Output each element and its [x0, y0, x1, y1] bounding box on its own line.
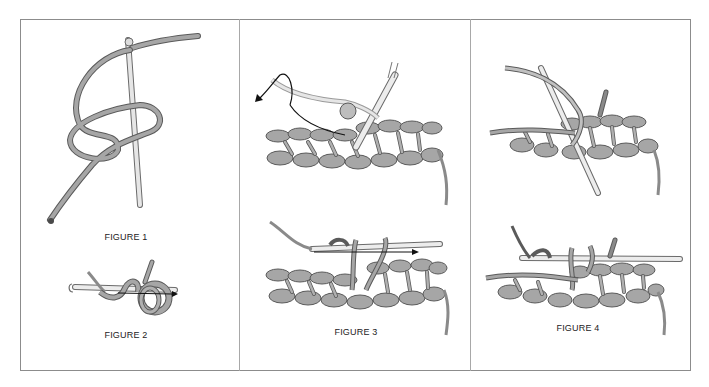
figure-4-bottom-illustration [0, 0, 709, 387]
figure-4-label: FIGURE 4 [556, 323, 599, 333]
